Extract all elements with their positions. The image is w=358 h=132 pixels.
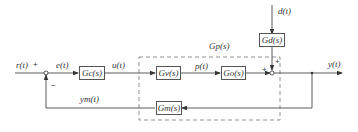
summing-junction-2	[270, 71, 274, 75]
generalized-process-label: Gp(s)	[209, 42, 230, 51]
control-label: u(t)	[112, 61, 125, 70]
summing-junction-1	[44, 71, 48, 75]
error-label: e(t)	[56, 61, 69, 70]
dist-plus-sign: +	[275, 58, 280, 66]
disturbance-block: Gd(s)	[259, 33, 285, 47]
process-block: Go(s)	[221, 66, 246, 80]
feedback-minus-sign: −	[51, 82, 56, 90]
output-label: y(t)	[328, 60, 341, 69]
measurement-block: Gm(s)	[156, 101, 182, 115]
valve-block: Gv(s)	[156, 66, 181, 80]
measured-label: ym(t)	[80, 95, 99, 104]
ref-plus-sign: +	[33, 61, 38, 69]
reference-label: r(t)	[16, 61, 28, 70]
manipulated-label: p(t)	[195, 62, 208, 71]
controller-block: Gc(s)	[79, 66, 105, 80]
disturbance-label: d(t)	[278, 7, 291, 16]
process-plus-sign: +	[262, 66, 267, 74]
